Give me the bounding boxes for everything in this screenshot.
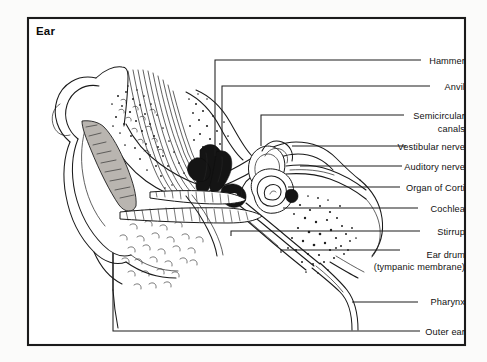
label-cochlea: Cochlea: [431, 204, 465, 216]
label-auditory-nerve: Auditory nerve: [404, 162, 465, 174]
label-semicircular: Semicircular: [413, 111, 465, 123]
ear-diagram-figure: Ear Hammer Anvil Semicircular canals Ves…: [0, 0, 487, 362]
label-vestibular-nerve: Vestibular nerve: [398, 142, 465, 154]
label-organ-of-corti: Organ of Corti: [406, 183, 465, 195]
eustachian-tube-band: [120, 208, 262, 223]
label-outer-ear: Outer ear: [425, 327, 465, 339]
label-stirrup: Stirrup: [437, 227, 465, 239]
label-ear-drum: Ear drum: [426, 250, 465, 262]
page-title: Ear: [36, 25, 55, 37]
label-anvil: Anvil: [445, 82, 465, 94]
label-hammer: Hammer: [429, 56, 465, 68]
label-semicircular-canals: canals: [438, 124, 465, 136]
organ-of-corti-marker: [285, 189, 298, 202]
ear-diagram-canvas: [0, 0, 487, 362]
label-tympanic-membrane: (tympanic membrane): [374, 262, 465, 274]
label-pharynx: Pharynx: [431, 297, 465, 309]
